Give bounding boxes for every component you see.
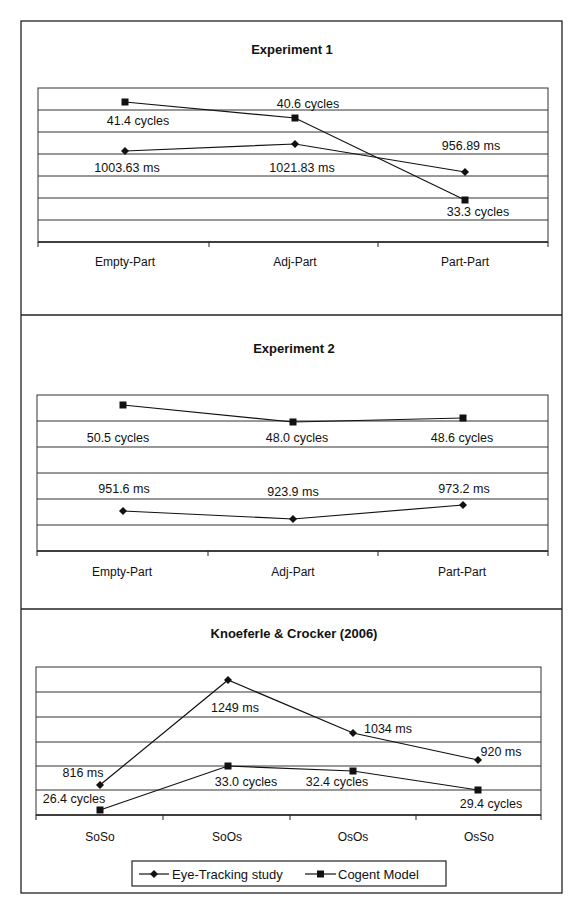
data-label: 41.4 cycles [107,114,170,128]
data-label: 1034 ms [364,722,412,736]
data-label: 48.0 cycles [266,431,329,445]
square-marker [97,807,104,814]
panel-experiment-2: Experiment 2 50.5 cycles 48.0 cycles 48.… [37,341,548,579]
category-label: Part-Part [438,565,487,579]
panel-title: Experiment 1 [251,42,333,57]
legend-model-label: Cogent Model [338,867,419,882]
panel-title: Knoeferle & Crocker (2006) [211,626,378,641]
square-marker [292,115,299,122]
data-label: 956.89 ms [442,139,500,153]
category-label: SoSo [85,830,115,844]
square-marker [475,787,482,794]
data-label: 1021.83 ms [269,161,334,175]
diamond-marker [349,729,357,737]
category-label: SoOs [212,830,242,844]
category-label: OsOs [338,830,369,844]
square-marker [225,763,232,770]
square-marker [460,415,467,422]
data-label: 816 ms [63,766,104,780]
figure: Experiment 1 41.4 cycles 40.6 cycles 33 [0,0,573,905]
square-marker [122,99,129,106]
data-label: 33.3 cycles [447,205,510,219]
data-label: 973.2 ms [438,482,489,496]
eye-line [100,680,478,785]
data-label: 1249 ms [211,701,259,715]
diamond-marker [119,507,127,515]
square-marker [350,768,357,775]
legend-eye-label: Eye-Tracking study [172,867,283,882]
square-marker-icon [317,871,324,878]
category-label: Empty-Part [92,565,153,579]
panel-knoeferle-crocker: Knoeferle & Crocker (2006) 26.4 cycles 3… [36,626,541,886]
data-label: 29.4 cycles [460,797,523,811]
diamond-marker [459,501,467,509]
category-label: Adj-Part [273,255,317,269]
data-label: 1003.63 ms [94,161,159,175]
square-marker [290,419,297,426]
legend: Eye-Tracking study Cogent Model [132,861,446,886]
data-label: 48.6 cycles [431,431,494,445]
diamond-marker [291,140,299,148]
data-label: 920 ms [481,745,522,759]
data-label: 33.0 cycles [215,775,278,789]
category-label: OsSo [464,830,494,844]
diamond-marker [289,515,297,523]
data-label: 40.6 cycles [277,97,340,111]
square-marker [462,197,469,204]
diamond-marker [461,168,469,176]
data-label: 923.9 ms [267,485,318,499]
data-label: 50.5 cycles [87,431,150,445]
panel-experiment-1: Experiment 1 41.4 cycles 40.6 cycles 33 [38,42,548,269]
data-label: 32.4 cycles [306,775,369,789]
model-line [100,766,478,810]
data-label: 26.4 cycles [43,792,106,806]
panel-title: Experiment 2 [253,341,335,356]
category-label: Adj-Part [271,565,315,579]
data-label: 951.6 ms [98,482,149,496]
category-label: Part-Part [441,255,490,269]
category-label: Empty-Part [95,255,156,269]
square-marker [120,402,127,409]
